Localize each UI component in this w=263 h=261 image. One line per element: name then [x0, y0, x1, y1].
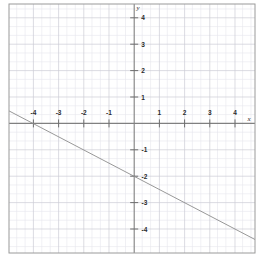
y-tick-label-neg3: -3: [142, 199, 148, 206]
coordinate-plane-figure: -4 -3 -2 -1 1 2 3 4 4 3 2 1 -1 -2 -3 -4 …: [0, 0, 263, 261]
y-tick-label-4: 4: [141, 14, 145, 21]
x-tick-label-neg2: -2: [81, 109, 87, 116]
x-tick-label-2: 2: [183, 109, 187, 116]
x-tick-label-3: 3: [208, 109, 212, 116]
plot-background: [9, 4, 255, 253]
y-tick-label-neg2: -2: [142, 173, 148, 180]
y-tick-label-neg1: -1: [142, 146, 148, 153]
y-tick-label-neg4: -4: [142, 226, 148, 233]
y-tick-label-3: 3: [141, 41, 145, 48]
x-tick-label-neg4: -4: [31, 109, 37, 116]
graph-canvas: -4 -3 -2 -1 1 2 3 4 4 3 2 1 -1 -2 -3 -4 …: [0, 0, 263, 261]
x-tick-label-4: 4: [233, 109, 237, 116]
y-tick-label-1: 1: [141, 94, 145, 101]
x-tick-label-1: 1: [158, 109, 162, 116]
x-tick-label-neg3: -3: [56, 109, 62, 116]
x-tick-label-neg1: -1: [106, 109, 112, 116]
y-tick-label-2: 2: [141, 67, 145, 74]
